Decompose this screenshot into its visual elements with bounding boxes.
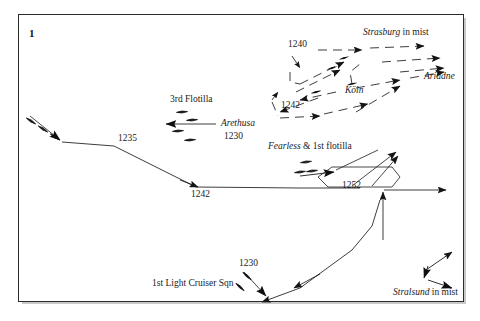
track-koln-turn (350, 64, 360, 84)
label-1230-lcs: 1230 (239, 259, 258, 269)
label-fearless: Fearless & 1st flotilla (268, 142, 352, 152)
ship-fearless-3 (306, 169, 317, 172)
ship-lcs-2 (235, 283, 244, 292)
track-strasburg-c (382, 58, 440, 62)
track-koln-west (300, 92, 336, 100)
label-1242-upper: 1242 (281, 101, 300, 111)
track-1242u-east (280, 116, 320, 118)
track-1240-hook (292, 56, 300, 68)
label-arethusa: Arethusa (221, 119, 255, 129)
label-fearless-suffix: & 1st flotilla (301, 141, 352, 151)
ship-arethusa-1 (176, 111, 187, 114)
label-1235: 1235 (118, 134, 137, 144)
track-british-lead-arrows (26, 116, 60, 141)
track-1240-ne (300, 62, 344, 84)
track-lcs-west (262, 288, 300, 302)
track-stralsund-ne (426, 252, 452, 270)
track-1240-ne2 (296, 70, 340, 92)
track-1240-v (290, 72, 300, 84)
track-1242u-v (272, 102, 278, 116)
track-lcs-rise (300, 200, 380, 288)
label-1252: 1252 (342, 181, 361, 191)
label-strasburg: Strasburg in mist (363, 28, 429, 38)
stralsund-track (424, 252, 452, 288)
ship-arethusa-3 (172, 130, 183, 133)
ship-arethusa-2 (186, 119, 197, 122)
ship-arethusa-4 (184, 139, 195, 142)
label-stralsund: Stralsund in mist (393, 288, 458, 298)
label-1242-lower: 1242 (191, 190, 210, 200)
label-arethusa-time: 1230 (224, 132, 243, 142)
map-vector-layer (0, 0, 480, 321)
label-stralsund-name: Stralsund (393, 287, 429, 297)
label-3rd-flotilla: 3rd Flotilla (170, 95, 213, 105)
track-fearless-arrow (300, 172, 334, 176)
label-fearless-name: Fearless (268, 141, 301, 151)
label-1st-lcs: 1st Light Cruiser Sqn (152, 279, 234, 289)
track-1242u-hook (272, 92, 278, 100)
label-strasburg-suffix: in mist (400, 27, 429, 37)
label-stralsund-suffix: in mist (429, 287, 458, 297)
ship-fearless-1 (300, 160, 311, 163)
track-stralsund-sw (424, 266, 428, 278)
naval-track-chart: 1 (0, 0, 480, 321)
ship-fearless-2 (294, 170, 305, 173)
track-main-british (62, 142, 196, 187)
label-koln: Köln (345, 86, 363, 96)
track-lcs-arrow2 (294, 274, 320, 288)
track-1242-arrowhead (180, 180, 198, 187)
track-lcs-entry (244, 272, 266, 296)
label-1240: 1240 (288, 40, 307, 50)
track-strasburg-b (370, 46, 424, 48)
label-ariadne: Ariadne (424, 72, 455, 82)
label-strasburg-name: Strasburg (363, 27, 400, 37)
